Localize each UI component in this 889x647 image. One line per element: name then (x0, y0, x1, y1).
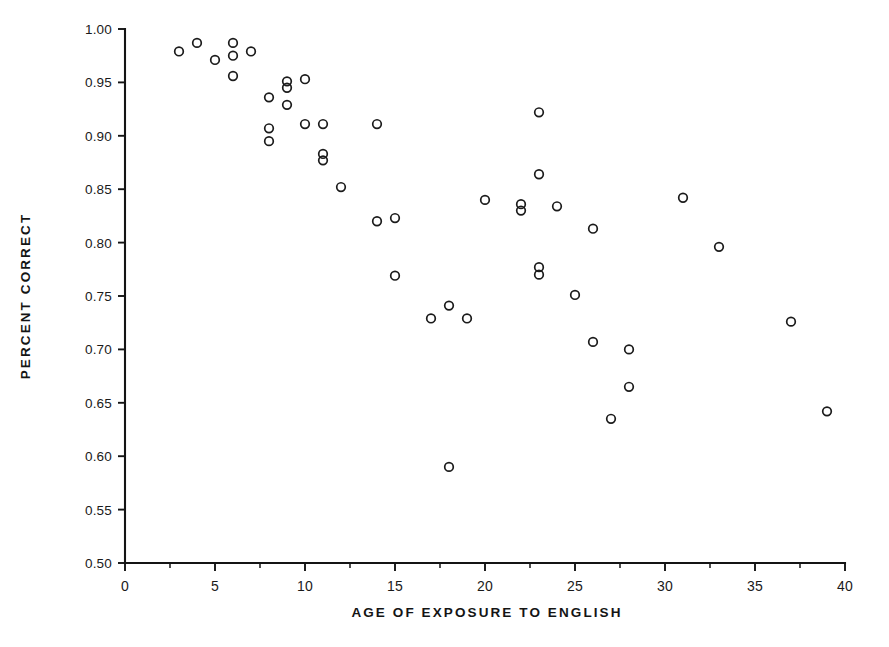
data-point (247, 47, 256, 56)
data-point (445, 463, 454, 472)
y-axis-title: PERCENT CORRECT (18, 213, 33, 380)
data-point (229, 51, 238, 60)
tick-marks (118, 29, 845, 571)
y-tick-label: 1.00 (85, 22, 112, 37)
y-tick-label: 0.85 (85, 182, 112, 197)
y-tick-label: 0.95 (85, 75, 112, 90)
y-tick-label: 0.50 (85, 556, 112, 571)
data-point (193, 39, 202, 48)
data-point (391, 214, 400, 223)
data-point (625, 382, 634, 391)
data-point (535, 108, 544, 117)
data-point (283, 83, 292, 92)
data-point (319, 156, 328, 165)
x-tick-label: 25 (567, 578, 583, 594)
data-point (445, 301, 454, 310)
data-point (427, 314, 436, 323)
x-tick-label: 5 (211, 578, 219, 594)
data-point (229, 39, 238, 48)
data-point (373, 217, 382, 226)
x-tick-label: 10 (297, 578, 313, 594)
x-tick-label: 40 (837, 578, 853, 594)
data-point (175, 47, 184, 56)
data-point (265, 124, 274, 133)
y-tick-label: 0.70 (85, 342, 112, 357)
x-axis-title: AGE OF EXPOSURE TO ENGLISH (351, 605, 622, 620)
y-axis-tick-labels: 0.500.550.600.650.700.750.800.850.900.95… (85, 22, 112, 571)
x-tick-label: 15 (387, 578, 403, 594)
data-point (265, 137, 274, 146)
data-point (823, 407, 832, 416)
data-point (319, 120, 328, 129)
x-tick-label: 0 (121, 578, 129, 594)
scatter-plot-figure: 0.500.550.600.650.700.750.800.850.900.95… (0, 0, 889, 647)
data-point (589, 338, 598, 347)
data-point (391, 271, 400, 280)
data-point (211, 56, 220, 65)
plot-canvas: 0.500.550.600.650.700.750.800.850.900.95… (0, 0, 889, 647)
data-point (589, 224, 598, 233)
y-tick-label: 0.55 (85, 503, 112, 518)
data-point (787, 317, 796, 326)
x-tick-label: 35 (747, 578, 763, 594)
data-points (175, 39, 832, 472)
x-axis-tick-labels: 0510152025303540 (121, 578, 853, 594)
y-tick-label: 0.65 (85, 396, 112, 411)
y-tick-label: 0.80 (85, 236, 112, 251)
data-point (301, 120, 310, 129)
y-tick-label: 0.75 (85, 289, 112, 304)
data-point (283, 101, 292, 110)
data-point (607, 415, 616, 424)
data-point (571, 291, 580, 300)
data-point (301, 75, 310, 84)
data-point (535, 170, 544, 179)
data-point (553, 202, 562, 211)
data-point (463, 314, 472, 323)
data-point (481, 196, 490, 205)
data-point (517, 206, 526, 215)
data-point (337, 183, 346, 192)
data-point (229, 72, 238, 81)
data-point (679, 193, 688, 202)
data-point (265, 93, 274, 102)
data-point (715, 243, 724, 252)
y-tick-label: 0.60 (85, 449, 112, 464)
data-point (625, 345, 634, 354)
y-tick-label: 0.90 (85, 129, 112, 144)
x-tick-label: 20 (477, 578, 493, 594)
x-tick-label: 30 (657, 578, 673, 594)
data-point (373, 120, 382, 129)
axes (125, 29, 845, 563)
